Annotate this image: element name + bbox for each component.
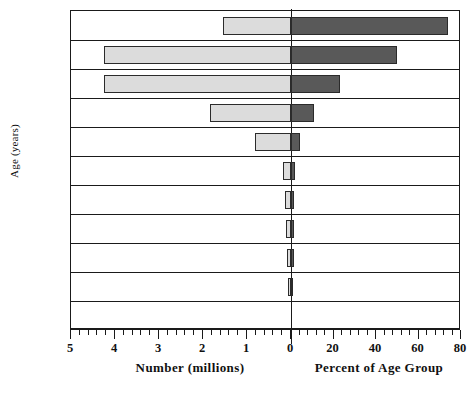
bar-percent-of-age-group (291, 17, 448, 35)
row-divider (71, 98, 459, 99)
axis-tick-label: 5 (67, 341, 73, 356)
axis-tick-label: 40 (369, 341, 382, 356)
axis-tick-minor (401, 330, 402, 335)
axis-tick-minor (426, 330, 427, 335)
axis-tick-minor (149, 330, 150, 335)
axis-tick-minor (220, 330, 221, 335)
row-divider (71, 214, 459, 215)
axis-tick-minor (184, 330, 185, 335)
axis-tick-minor (96, 330, 97, 335)
row-divider (71, 127, 459, 128)
bar-number-millions (210, 104, 291, 122)
axis-tick-major (158, 330, 159, 339)
axis-tick-label: 3 (155, 341, 161, 356)
bar-percent-of-age-group (291, 75, 340, 93)
y-axis-title: Age (years) (8, 101, 20, 201)
axis-tick-minor (167, 330, 168, 335)
row-divider (71, 272, 459, 273)
axis-tick-minor (409, 330, 410, 335)
axis-tick-minor (367, 330, 368, 335)
axis-tick-minor (228, 330, 229, 335)
axis-tick-major (202, 330, 203, 339)
axis-tick-minor (193, 330, 194, 335)
axis-tick-minor (435, 330, 436, 335)
bar-percent-of-age-group (291, 249, 294, 267)
axis-tick-minor (255, 330, 256, 335)
axis-tick-minor (341, 330, 342, 335)
axis-tick-minor (237, 330, 238, 335)
bar-percent-of-age-group (291, 191, 294, 209)
axis-tick-minor (324, 330, 325, 335)
axis-tick-minor (123, 330, 124, 335)
axis-tick-minor (307, 330, 308, 335)
axis-tick-minor (281, 330, 282, 335)
axis-tick-minor (272, 330, 273, 335)
bar-percent-of-age-group (291, 278, 293, 296)
right-axis-title: Percent of Age Group (315, 360, 443, 376)
axis-tick-minor (211, 330, 212, 335)
row-divider (71, 301, 459, 302)
bar-percent-of-age-group (291, 133, 300, 151)
row-divider (71, 243, 459, 244)
axis-tick-minor (79, 330, 80, 335)
plot-area: Over 8475–8465–7455–6445–5440–4435–3930–… (70, 10, 460, 329)
x-axis: 54321020406080 (70, 329, 460, 330)
axis-tick-minor (384, 330, 385, 335)
row-divider (71, 40, 459, 41)
left-axis-title: Number (millions) (136, 360, 245, 376)
bar-number-millions (255, 133, 291, 151)
axis-tick-minor (105, 330, 106, 335)
axis-tick-major (418, 330, 419, 339)
row-divider (71, 156, 459, 157)
axis-tick-minor (443, 330, 444, 335)
bar-percent-of-age-group (291, 46, 397, 64)
axis-tick-minor (452, 330, 453, 335)
axis-tick-label: 4 (111, 341, 117, 356)
bar-number-millions (104, 75, 291, 93)
axis-tick-major (246, 330, 247, 339)
axis-tick-minor (176, 330, 177, 335)
axis-tick-major (70, 330, 71, 339)
axis-tick-minor (132, 330, 133, 335)
bar-number-millions (223, 17, 291, 35)
age-group-diverging-bar-chart: Age (years) Over 8475–8465–7455–6445–544… (0, 0, 476, 395)
bar-percent-of-age-group (291, 104, 314, 122)
axis-tick-label: 80 (454, 341, 467, 356)
axis-tick-label: 1 (243, 341, 249, 356)
axis-tick-major (114, 330, 115, 339)
axis-tick-minor (140, 330, 141, 335)
row-divider (71, 185, 459, 186)
axis-tick-minor (358, 330, 359, 335)
axis-tick-major (375, 330, 376, 339)
axis-tick-minor (350, 330, 351, 335)
axis-tick-label: 0 (287, 341, 293, 356)
axis-tick-minor (392, 330, 393, 335)
axis-tick-major (460, 330, 461, 339)
axis-tick-minor (299, 330, 300, 335)
axis-tick-minor (88, 330, 89, 335)
axis-tick-label: 60 (411, 341, 424, 356)
axis-tick-minor (316, 330, 317, 335)
axis-tick-minor (264, 330, 265, 335)
axis-tick-label: 2 (199, 341, 205, 356)
axis-tick-label: 20 (326, 341, 339, 356)
bar-number-millions (283, 162, 291, 180)
axis-tick-major (290, 330, 291, 339)
bar-number-millions (104, 46, 291, 64)
bar-percent-of-age-group (291, 162, 295, 180)
axis-tick-major (333, 330, 334, 339)
row-divider (71, 69, 459, 70)
bar-percent-of-age-group (291, 220, 294, 238)
